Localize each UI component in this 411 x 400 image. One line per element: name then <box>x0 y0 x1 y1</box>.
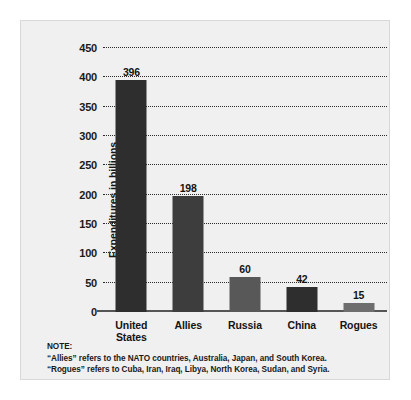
y-axis-tick: 300 <box>79 130 97 142</box>
bar-value-label: 198 <box>180 182 197 194</box>
plot-area: 050100150200250300350400450 396United St… <box>103 48 387 312</box>
bar-value-label: 396 <box>123 66 140 78</box>
bar[interactable]: 198Allies <box>173 196 204 312</box>
x-axis-category-label: China <box>287 319 316 331</box>
x-axis-category-label: Allies <box>174 319 201 331</box>
y-axis-tick: 0 <box>91 306 97 318</box>
bar[interactable]: 42China <box>286 287 317 312</box>
bar-slot: 15Rogues <box>330 48 387 312</box>
bar-slot: 60Russia <box>217 48 274 312</box>
bar[interactable]: 396United States <box>116 80 147 312</box>
y-axis-tick: 100 <box>79 247 97 259</box>
note-line: “Rogues” refers to Cuba, Iran, Iraq, Lib… <box>47 364 377 376</box>
y-axis-tick: 50 <box>85 277 97 289</box>
chart-figure: Expenditures in billions 050100150200250… <box>20 20 390 380</box>
y-axis-tick: 150 <box>79 218 97 230</box>
bar[interactable]: 60Russia <box>229 277 260 312</box>
y-axis-tick: 450 <box>79 42 97 54</box>
x-axis-category-label: Rogues <box>340 319 378 331</box>
bar-value-label: 15 <box>353 289 364 301</box>
bar-slot: 42China <box>273 48 330 312</box>
bar-value-label: 42 <box>296 273 307 285</box>
note-block: NOTE: “Allies” refers to the NATO countr… <box>47 341 377 376</box>
note-line: “Allies” refers to the NATO countries, A… <box>47 353 377 365</box>
note-heading: NOTE: <box>47 341 377 353</box>
y-axis-tick: 350 <box>79 101 97 113</box>
y-axis-tick: 250 <box>79 159 97 171</box>
bar-slot: 396United States <box>103 48 160 312</box>
y-axis-tick: 200 <box>79 189 97 201</box>
bar-value-label: 60 <box>239 263 250 275</box>
x-axis-category-label: Russia <box>228 319 262 331</box>
bar[interactable]: 15Rogues <box>343 303 374 312</box>
bar-slot: 198Allies <box>160 48 217 312</box>
y-axis-tick: 400 <box>79 71 97 83</box>
x-axis-category-label: United States <box>115 319 147 343</box>
